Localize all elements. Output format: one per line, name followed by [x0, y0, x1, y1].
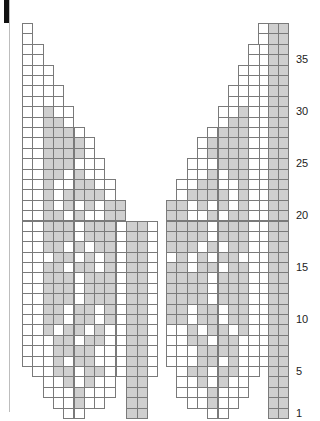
plain-cell	[187, 397, 198, 408]
plain-cell	[104, 387, 115, 398]
row-label-20: 20	[296, 209, 308, 221]
shaded-cell	[137, 408, 148, 419]
shaded-cell	[278, 408, 289, 419]
plain-cell	[238, 387, 249, 398]
row-label-5: 5	[296, 365, 302, 377]
row-label-25: 25	[296, 157, 308, 169]
plain-cell	[147, 366, 158, 377]
plain-cell	[207, 408, 218, 419]
row-label-10: 10	[296, 313, 308, 325]
plain-cell	[248, 366, 259, 377]
plain-cell	[74, 408, 85, 419]
row-label-15: 15	[296, 261, 308, 273]
row-label-1: 1	[296, 407, 302, 419]
row-label-30: 30	[296, 105, 308, 117]
plain-cell	[218, 408, 229, 419]
row-label-35: 35	[296, 53, 308, 65]
plain-cell	[94, 397, 105, 408]
plain-cell	[228, 397, 239, 408]
chart-grid	[0, 0, 320, 421]
